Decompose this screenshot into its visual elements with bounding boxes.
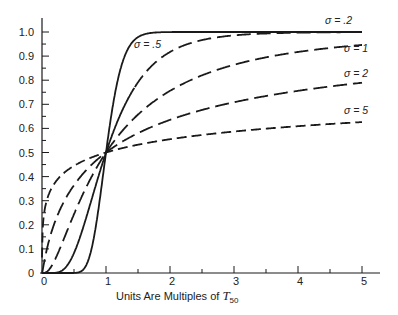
y-tick-label: 0.3 (19, 195, 34, 207)
curve-label-sigma-0.2: σ = .2 (325, 14, 352, 26)
y-tick-label: 1.0 (19, 26, 34, 38)
y-tick-label: 0.5 (19, 147, 34, 159)
curve-sigma-2 (42, 83, 362, 273)
x-axis-title: Units Are Multiples of T50 (116, 288, 239, 305)
curves (42, 32, 362, 273)
x-axis-title-subscript: 50 (230, 296, 239, 305)
lognormal-cdf-chart: 00.10.20.30.40.50.60.70.80.91.0012345 σ … (0, 0, 398, 315)
x-axis-title-symbol: T (222, 288, 229, 303)
curve-label-sigma-2: σ = 2 (344, 67, 368, 79)
y-tick-label: 0.8 (19, 74, 34, 86)
x-tick-label: 4 (297, 275, 303, 287)
x-tick-label: 0 (41, 275, 47, 287)
x-tick-label: 1 (105, 275, 111, 287)
curve-label-sigma-1: σ = 1 (344, 42, 368, 54)
x-axis-title-text: Units Are Multiples of (116, 290, 222, 302)
y-tick-label: 0 (28, 267, 34, 279)
curve-label-sigma-5: σ = 5 (344, 104, 368, 116)
y-tick-label: 0.4 (19, 171, 34, 183)
y-tick-label: 0.7 (19, 98, 34, 110)
y-tick-label: 0.1 (19, 243, 34, 255)
x-tick-label: 3 (233, 275, 239, 287)
x-tick-label: 2 (169, 275, 175, 287)
y-tick-label: 0.9 (19, 50, 34, 62)
x-tick-label: 5 (361, 275, 367, 287)
curve-sigma-0.5-dashed (135, 32, 362, 87)
curve-labels: σ = .2σ = .5σ = 1σ = 2σ = 5 (134, 14, 368, 116)
curve-sigma-0.2 (42, 32, 362, 273)
curve-sigma-1 (42, 45, 362, 273)
curve-sigma-5 (42, 122, 362, 257)
axes: 00.10.20.30.40.50.60.70.80.91.0012345 (19, 18, 380, 287)
y-tick-label: 0.2 (19, 219, 34, 231)
curve-label-sigma-0.5: σ = .5 (134, 38, 161, 50)
y-tick-label: 0.6 (19, 122, 34, 134)
